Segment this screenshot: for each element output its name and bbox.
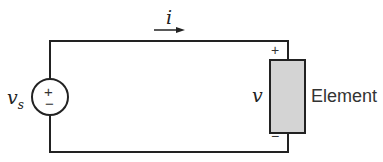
source-minus: − <box>45 95 54 112</box>
current-label: i <box>166 6 172 28</box>
circuit-wires <box>0 0 383 162</box>
top-wire <box>50 41 288 79</box>
source-label: vs <box>7 86 24 112</box>
element-voltage-label: v <box>252 84 263 106</box>
element-minus: − <box>271 128 279 144</box>
bottom-wire <box>50 115 288 152</box>
element-box <box>270 60 305 133</box>
element-plus: + <box>271 42 279 58</box>
circuit-diagram: + − vs i + − v Element <box>0 0 383 162</box>
element-label: Element <box>311 86 377 107</box>
